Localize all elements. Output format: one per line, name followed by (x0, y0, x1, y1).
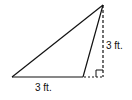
triangle-left-side (12, 5, 103, 77)
triangle-diagram: 3 ft. 3 ft. (0, 0, 132, 100)
triangle-right-side (83, 5, 103, 77)
height-label: 3 ft. (106, 40, 123, 51)
base-label: 3 ft. (35, 82, 52, 93)
right-angle-marker (96, 70, 103, 77)
